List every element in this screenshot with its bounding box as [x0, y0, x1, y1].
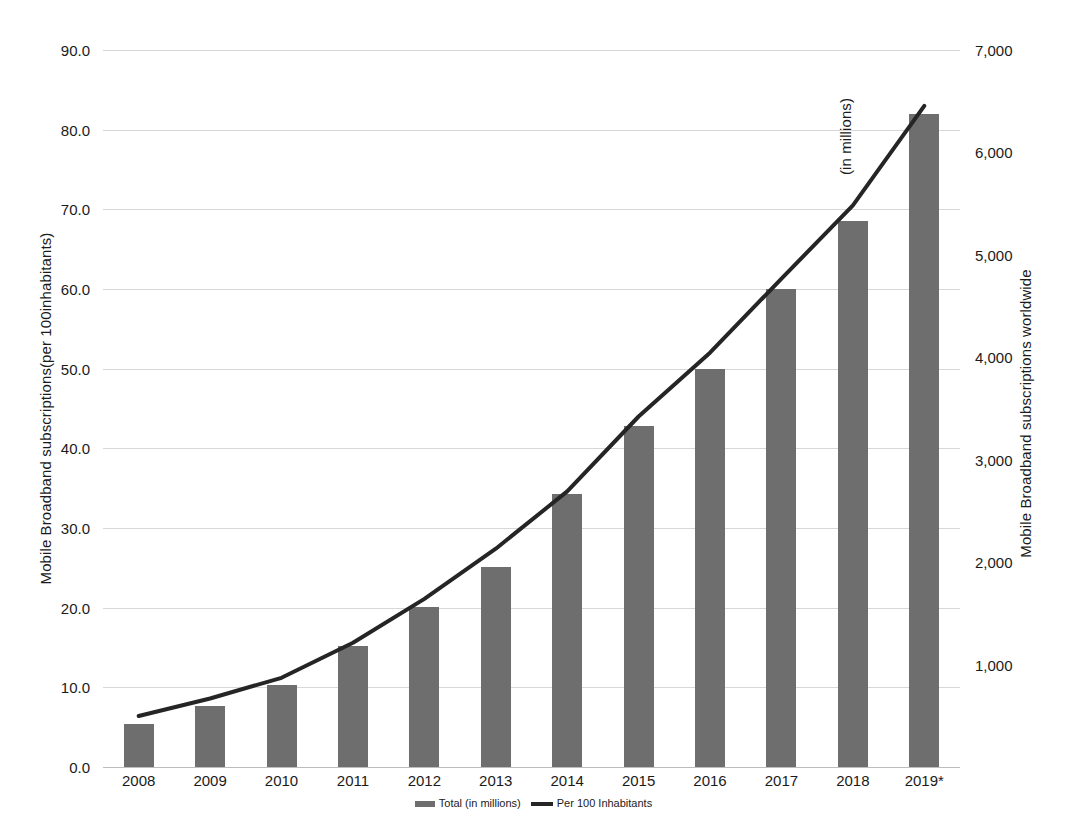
left-axis-tick-label: 50.0 [20, 362, 90, 377]
right-axis-tick-labels: 1,0002,0003,0004,0005,0006,0007,000 [975, 50, 1055, 767]
x-axis-tick-labels: 2008200920102011201220132014201520162017… [103, 772, 960, 796]
plot-area [103, 50, 960, 767]
x-axis-tick-label: 2015 [622, 772, 655, 789]
right-axis-tick-label: 3,000 [975, 453, 1055, 468]
left-axis-tick-label: 40.0 [20, 441, 90, 456]
x-axis-tick-label: 2016 [693, 772, 726, 789]
right-axis-tick-label: 4,000 [975, 350, 1055, 365]
left-axis-tick-label: 0.0 [20, 760, 90, 775]
right-axis-tick-label: 7,000 [975, 43, 1055, 58]
gridline [103, 767, 960, 768]
x-axis-tick-label: 2012 [408, 772, 441, 789]
line-swatch-icon [531, 802, 553, 806]
legend-label-total: Total (in millions) [439, 798, 521, 809]
x-axis-tick-label: 2011 [337, 772, 369, 789]
left-axis-tick-label: 30.0 [20, 521, 90, 536]
x-axis-tick-label: 2017 [765, 772, 798, 789]
x-axis-tick-label: 2018 [836, 772, 869, 789]
x-axis-tick-label: 2019* [905, 772, 944, 789]
right-axis-tick-label: 6,000 [975, 145, 1055, 160]
left-axis-tick-label: 60.0 [20, 282, 90, 297]
line-series [103, 50, 960, 767]
right-axis-tick-label: 5,000 [975, 248, 1055, 263]
chart-container: Mobile Broadband subscriptions(per 100in… [0, 0, 1067, 838]
x-axis-tick-label: 2013 [479, 772, 512, 789]
x-axis-tick-label: 2008 [122, 772, 155, 789]
legend-label-per-100-inhabitants: Per 100 Inhabitants [557, 798, 652, 809]
legend-item-per-100-inhabitants: Per 100 Inhabitants [531, 798, 652, 809]
chart-legend: Total (in millions) Per 100 Inhabitants [0, 798, 1067, 809]
left-axis-tick-labels: 0.010.020.030.040.050.060.070.080.090.0 [20, 50, 90, 767]
x-axis-tick-label: 2009 [193, 772, 226, 789]
left-axis-tick-label: 20.0 [20, 601, 90, 616]
legend-item-total: Total (in millions) [415, 798, 521, 809]
line-series-path [139, 106, 925, 716]
right-axis-tick-label: 2,000 [975, 555, 1055, 570]
left-axis-tick-label: 70.0 [20, 202, 90, 217]
left-axis-tick-label: 80.0 [20, 123, 90, 138]
right-axis-tick-label: 1,000 [975, 658, 1055, 673]
bar-swatch-icon [415, 801, 435, 807]
left-axis-tick-label: 90.0 [20, 43, 90, 58]
left-axis-tick-label: 10.0 [20, 680, 90, 695]
x-axis-tick-label: 2010 [265, 772, 298, 789]
x-axis-tick-label: 2014 [551, 772, 584, 789]
